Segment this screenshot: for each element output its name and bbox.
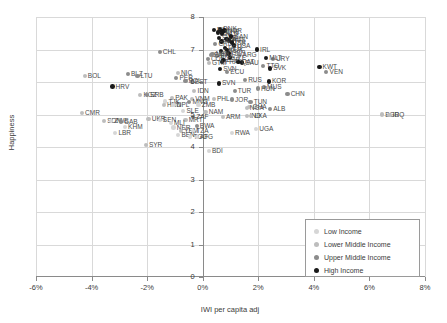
data-point bbox=[119, 120, 123, 124]
data-point bbox=[230, 131, 234, 135]
data-point-label: IRQ bbox=[393, 111, 405, 118]
legend-item-3[interactable]: High Income bbox=[314, 264, 419, 277]
data-point bbox=[138, 93, 142, 97]
data-point bbox=[317, 65, 322, 70]
data-point-label: CMR bbox=[85, 109, 100, 116]
y-tick-label: 3 bbox=[173, 176, 195, 184]
gridline-vertical bbox=[425, 17, 426, 277]
data-point bbox=[188, 135, 192, 139]
data-point-label: PHL bbox=[217, 95, 230, 102]
data-point-label: HUN bbox=[261, 85, 275, 92]
data-point bbox=[268, 66, 273, 71]
data-point-label: LTU bbox=[141, 72, 153, 79]
data-point bbox=[256, 86, 260, 90]
legend-marker-icon bbox=[314, 255, 319, 260]
legend-item-2[interactable]: Upper Middle Income bbox=[314, 251, 419, 264]
legend-marker-icon bbox=[314, 242, 319, 247]
data-point bbox=[113, 131, 117, 135]
data-point bbox=[264, 56, 269, 61]
data-point bbox=[230, 97, 234, 101]
data-point bbox=[212, 97, 216, 101]
data-point bbox=[221, 115, 225, 119]
data-point bbox=[207, 149, 211, 153]
data-point-label: BOL bbox=[88, 72, 101, 79]
data-point bbox=[195, 135, 199, 139]
data-point bbox=[245, 114, 249, 118]
x-tick-mark bbox=[258, 277, 259, 281]
y-tick-label: 2 bbox=[173, 208, 195, 216]
data-point bbox=[268, 107, 272, 111]
gridline-horizontal bbox=[36, 17, 425, 18]
gridline-vertical bbox=[258, 17, 259, 277]
x-tick-label: 4% bbox=[297, 284, 331, 292]
x-tick-mark bbox=[92, 277, 93, 281]
data-point-label: EST bbox=[195, 78, 208, 85]
data-point bbox=[126, 72, 130, 76]
data-point-label: SYR bbox=[149, 141, 162, 148]
data-point bbox=[236, 60, 241, 65]
x-tick-label: -4% bbox=[75, 284, 109, 292]
x-tick-label: -6% bbox=[19, 284, 53, 292]
x-tick-label: 0% bbox=[186, 284, 220, 292]
y-tick-label: 8 bbox=[173, 13, 195, 21]
data-point bbox=[285, 92, 289, 96]
y-tick-label: 1 bbox=[173, 241, 195, 249]
x-tick-mark bbox=[36, 277, 37, 281]
y-tick-label: 6 bbox=[173, 78, 195, 86]
data-point bbox=[217, 81, 222, 86]
legend-marker-icon bbox=[314, 229, 319, 234]
data-point bbox=[192, 89, 196, 93]
data-point-label: ALB bbox=[273, 105, 285, 112]
data-point-label: IRL bbox=[260, 46, 270, 53]
data-point bbox=[213, 42, 217, 46]
gridline-horizontal bbox=[36, 147, 425, 148]
legend-item-0[interactable]: Low Income bbox=[314, 225, 419, 238]
x-tick-label: 6% bbox=[352, 284, 386, 292]
data-point-label: SVN bbox=[222, 79, 235, 86]
data-point bbox=[102, 119, 106, 123]
data-point-label: JOR bbox=[235, 96, 248, 103]
data-point-label: SVK bbox=[273, 64, 286, 71]
data-point bbox=[324, 70, 328, 74]
data-point bbox=[135, 74, 139, 78]
y-tick-label: 5 bbox=[173, 111, 195, 119]
legend: Low IncomeLower Middle IncomeUpper Middl… bbox=[305, 219, 420, 277]
x-tick-mark bbox=[314, 277, 315, 281]
data-point bbox=[158, 50, 162, 54]
data-point bbox=[254, 127, 258, 131]
data-point-label: CHN bbox=[291, 90, 305, 97]
legend-marker-icon bbox=[314, 268, 319, 273]
x-tick-label: 8% bbox=[408, 284, 442, 292]
data-point-label: IDN bbox=[198, 87, 209, 94]
data-point-label: SRB bbox=[150, 91, 163, 98]
data-point bbox=[245, 106, 249, 110]
y-axis-line bbox=[203, 17, 204, 277]
data-point-label: UGA bbox=[259, 125, 273, 132]
legend-label: Upper Middle Income bbox=[324, 253, 391, 262]
data-point bbox=[162, 103, 166, 107]
legend-label: High Income bbox=[324, 266, 363, 275]
data-point-label: HRV bbox=[116, 83, 130, 90]
data-point bbox=[387, 113, 391, 117]
data-point-label: BDI bbox=[212, 147, 223, 154]
data-point bbox=[146, 117, 150, 121]
gridline-horizontal bbox=[36, 212, 425, 213]
data-point-label: LBR bbox=[118, 129, 131, 136]
data-point-label: AFG bbox=[200, 133, 213, 140]
data-point bbox=[169, 121, 173, 125]
x-tick-label: -2% bbox=[130, 284, 164, 292]
gridline-vertical bbox=[92, 17, 93, 277]
x-tick-mark bbox=[425, 277, 426, 281]
legend-item-1[interactable]: Lower Middle Income bbox=[314, 238, 419, 251]
y-tick-label: 0 bbox=[173, 273, 195, 281]
data-point bbox=[225, 70, 229, 74]
data-point-label: RUS bbox=[248, 76, 262, 83]
gridline-horizontal bbox=[36, 180, 425, 181]
data-point-label: ARM bbox=[226, 113, 240, 120]
x-tick-mark bbox=[203, 277, 204, 281]
data-point bbox=[218, 67, 223, 72]
data-point bbox=[380, 112, 384, 116]
data-point bbox=[83, 74, 87, 78]
data-point bbox=[233, 89, 237, 93]
y-tick-label: 4 bbox=[173, 143, 195, 151]
